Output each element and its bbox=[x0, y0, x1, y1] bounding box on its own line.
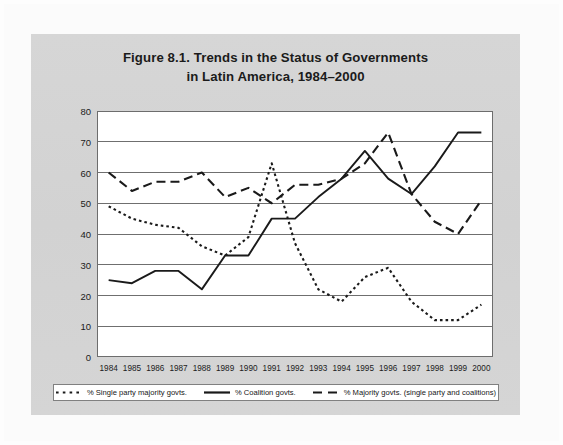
chart-legend: % Single party majority govts.% Coalitio… bbox=[53, 384, 499, 401]
x-axis-tick-label: 1984 bbox=[100, 364, 118, 373]
x-axis-tick-label: 1992 bbox=[286, 364, 304, 373]
chart-canvas bbox=[97, 111, 493, 357]
y-axis-tick-label: 70 bbox=[80, 136, 91, 147]
x-axis-tick-label: 1991 bbox=[263, 364, 281, 373]
legend-label: % Coalition govts. bbox=[235, 388, 296, 397]
y-axis-tick-label: 80 bbox=[80, 106, 91, 117]
legend-label: % Single party majority govts. bbox=[87, 388, 187, 397]
x-axis-tick-label: 1998 bbox=[426, 364, 444, 373]
x-axis-tick-label: 1999 bbox=[449, 364, 467, 373]
x-axis-tick-label: 1988 bbox=[193, 364, 211, 373]
plot-wrapper: 0102030405060708019841985198619871988198… bbox=[97, 111, 493, 357]
series-line bbox=[109, 163, 482, 320]
dotted-line-swatch bbox=[56, 388, 82, 397]
x-axis-tick-label: 1990 bbox=[239, 364, 257, 373]
x-axis-tick-label: 1993 bbox=[309, 364, 327, 373]
legend-label: % Majority govts. (single party and coal… bbox=[344, 388, 496, 397]
figure-panel: Figure 8.1. Trends in the Status of Gove… bbox=[31, 34, 520, 415]
y-axis-tick-label: 40 bbox=[80, 229, 91, 240]
x-axis-tick-label: 1995 bbox=[356, 364, 374, 373]
x-axis-tick-label: 1997 bbox=[402, 364, 420, 373]
legend-item: % Majority govts. (single party and coal… bbox=[313, 388, 496, 397]
x-axis-tick-label: 1985 bbox=[123, 364, 141, 373]
y-axis-tick-label: 30 bbox=[80, 259, 91, 270]
x-axis-tick-label: 2000 bbox=[472, 364, 490, 373]
y-axis-tick-label: 10 bbox=[80, 321, 91, 332]
x-axis-tick-label: 1986 bbox=[146, 364, 164, 373]
y-axis-tick-label: 50 bbox=[80, 198, 91, 209]
x-axis-tick-label: 1994 bbox=[332, 364, 350, 373]
legend-item: % Single party majority govts. bbox=[56, 388, 187, 397]
y-axis-tick-label: 60 bbox=[80, 167, 91, 178]
x-axis-tick-label: 1987 bbox=[169, 364, 187, 373]
x-axis-tick-label: 1989 bbox=[216, 364, 234, 373]
figure-title: Figure 8.1. Trends in the Status of Gove… bbox=[31, 48, 520, 86]
figure-title-line-2: in Latin America, 1984–2000 bbox=[31, 67, 520, 86]
figure-page: Figure 8.1. Trends in the Status of Gove… bbox=[0, 0, 563, 445]
legend-item: % Coalition govts. bbox=[204, 388, 296, 397]
figure-title-line-1: Figure 8.1. Trends in the Status of Gove… bbox=[123, 50, 428, 65]
y-axis-tick-label: 20 bbox=[80, 290, 91, 301]
x-axis-tick-label: 1996 bbox=[379, 364, 397, 373]
dashed-line-swatch bbox=[313, 388, 339, 397]
solid-line-swatch bbox=[204, 388, 230, 397]
y-axis-tick-label: 0 bbox=[86, 352, 91, 363]
